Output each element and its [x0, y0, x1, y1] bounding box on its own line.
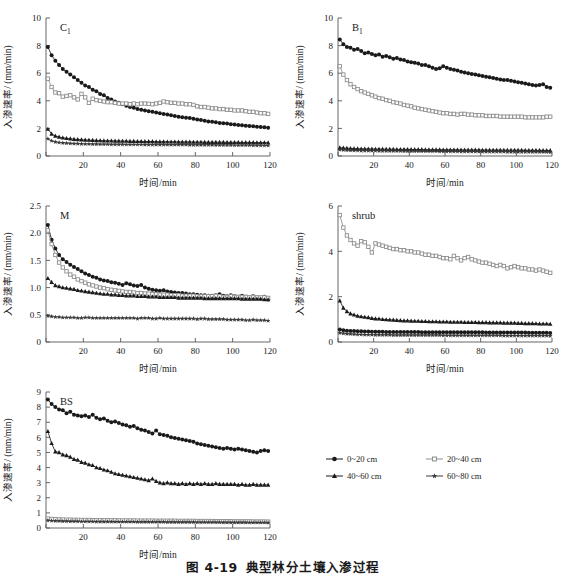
caption-number: 图 4-19 — [186, 560, 237, 575]
svg-text:40: 40 — [116, 532, 126, 542]
chart-panel-shrub: 024620406080100120shrub入渗速率/ (mm/min)时间/… — [292, 192, 564, 376]
svg-text:2: 2 — [329, 124, 334, 134]
svg-text:时间/min: 时间/min — [426, 177, 464, 188]
svg-text:40: 40 — [405, 160, 415, 170]
legend-marker-icon-1 — [425, 454, 444, 464]
legend-row: 0~20 cm 20~40 cm — [325, 450, 535, 467]
svg-text:4: 4 — [329, 247, 334, 257]
svg-text:入渗速率/ (mm/min): 入渗速率/ (mm/min) — [294, 45, 306, 129]
svg-text:80: 80 — [191, 532, 201, 542]
svg-text:60: 60 — [441, 160, 451, 170]
svg-text:20: 20 — [369, 346, 379, 356]
legend: 0~20 cm 20~40 cm 40~60 cm 60~80 cm — [325, 450, 535, 484]
svg-text:4: 4 — [37, 96, 42, 106]
figure-root: 024681020406080100120C1入渗速率/ (mm/min)时间/… — [0, 0, 566, 582]
svg-text:20: 20 — [79, 160, 89, 170]
svg-text:0: 0 — [37, 337, 42, 347]
svg-text:0: 0 — [329, 337, 334, 347]
svg-text:6: 6 — [329, 68, 334, 78]
svg-text:入渗速率/ (mm/min): 入渗速率/ (mm/min) — [2, 45, 14, 129]
svg-text:2: 2 — [37, 493, 42, 503]
svg-text:60: 60 — [154, 532, 164, 542]
svg-text:40: 40 — [405, 346, 415, 356]
legend-label-1: 20~40 cm — [447, 454, 481, 464]
svg-text:4: 4 — [37, 463, 42, 473]
svg-text:8: 8 — [37, 41, 42, 51]
svg-text:7: 7 — [37, 417, 42, 427]
svg-text:入渗速率/ (mm/min): 入渗速率/ (mm/min) — [2, 418, 14, 502]
svg-text:60: 60 — [154, 160, 164, 170]
legend-item-3[interactable]: 60~80 cm — [425, 471, 525, 481]
svg-text:0: 0 — [329, 151, 334, 161]
svg-text:5: 5 — [37, 448, 42, 458]
svg-text:40: 40 — [116, 346, 126, 356]
svg-text:1.0: 1.0 — [30, 283, 42, 293]
svg-text:0: 0 — [37, 151, 42, 161]
chart-panel-bs: 012345678920406080100120BS入渗速率/ (mm/min)… — [0, 378, 282, 562]
svg-text:6: 6 — [37, 433, 42, 443]
svg-text:1.5: 1.5 — [30, 256, 42, 266]
svg-text:0.5: 0.5 — [30, 310, 42, 320]
svg-text:时间/min: 时间/min — [139, 177, 177, 188]
svg-text:8: 8 — [329, 41, 334, 51]
chart-panel-c1: 024681020406080100120C1入渗速率/ (mm/min)时间/… — [0, 4, 282, 190]
svg-text:80: 80 — [191, 346, 201, 356]
svg-text:120: 120 — [263, 346, 277, 356]
svg-text:时间/min: 时间/min — [139, 363, 177, 374]
svg-text:10: 10 — [324, 13, 334, 23]
svg-text:80: 80 — [191, 160, 201, 170]
svg-text:6: 6 — [329, 201, 334, 211]
chart-panel-m: 00.51.01.52.02.520406080100120M入渗速率/ (mm… — [0, 192, 282, 376]
legend-item-0[interactable]: 0~20 cm — [325, 454, 425, 464]
svg-text:0: 0 — [37, 523, 42, 533]
svg-text:100: 100 — [226, 160, 240, 170]
svg-text:120: 120 — [263, 532, 277, 542]
svg-text:20: 20 — [79, 346, 89, 356]
svg-text:2: 2 — [329, 292, 334, 302]
svg-text:80: 80 — [476, 346, 486, 356]
svg-text:120: 120 — [545, 346, 559, 356]
svg-text:入渗速率/ (mm/min): 入渗速率/ (mm/min) — [294, 232, 306, 316]
svg-text:2: 2 — [37, 124, 42, 134]
chart-panel-b1: 024681020406080100120B1入渗速率/ (mm/min)时间/… — [292, 4, 564, 190]
svg-text:120: 120 — [263, 160, 277, 170]
svg-text:6: 6 — [37, 68, 42, 78]
legend-marker-icon-0 — [325, 454, 344, 464]
svg-text:BS: BS — [60, 396, 73, 407]
svg-text:2.5: 2.5 — [30, 201, 42, 211]
svg-text:120: 120 — [545, 160, 559, 170]
svg-text:B1: B1 — [352, 22, 363, 36]
svg-text:80: 80 — [476, 160, 486, 170]
svg-text:60: 60 — [154, 346, 164, 356]
legend-marker-icon-2 — [325, 471, 344, 481]
legend-item-2[interactable]: 40~60 cm — [325, 471, 425, 481]
svg-text:4: 4 — [329, 96, 334, 106]
svg-text:1: 1 — [37, 508, 42, 518]
svg-text:100: 100 — [226, 532, 240, 542]
legend-label-2: 40~60 cm — [347, 471, 381, 481]
legend-marker-icon-3 — [425, 471, 444, 481]
svg-text:60: 60 — [441, 346, 451, 356]
svg-text:时间/min: 时间/min — [426, 363, 464, 374]
legend-item-1[interactable]: 20~40 cm — [425, 454, 525, 464]
caption-text: 典型林分土壤入渗过程 — [246, 560, 380, 575]
svg-text:入渗速率/ (mm/min): 入渗速率/ (mm/min) — [2, 232, 14, 316]
svg-text:8: 8 — [37, 402, 42, 412]
svg-text:40: 40 — [116, 160, 126, 170]
legend-label-0: 0~20 cm — [347, 454, 377, 464]
svg-text:100: 100 — [510, 160, 524, 170]
svg-text:C1: C1 — [60, 22, 71, 36]
legend-row: 40~60 cm 60~80 cm — [325, 467, 535, 484]
svg-text:10: 10 — [32, 13, 42, 23]
svg-text:shrub: shrub — [352, 210, 375, 221]
svg-text:3: 3 — [37, 478, 42, 488]
svg-text:9: 9 — [37, 387, 42, 397]
svg-text:M: M — [60, 210, 70, 221]
figure-caption: 图 4-19典型林分土壤入渗过程 — [0, 557, 566, 576]
svg-text:20: 20 — [79, 532, 89, 542]
legend-label-3: 60~80 cm — [447, 471, 481, 481]
svg-text:2.0: 2.0 — [30, 228, 42, 238]
svg-text:100: 100 — [226, 346, 240, 356]
svg-text:100: 100 — [510, 346, 524, 356]
svg-text:20: 20 — [369, 160, 379, 170]
